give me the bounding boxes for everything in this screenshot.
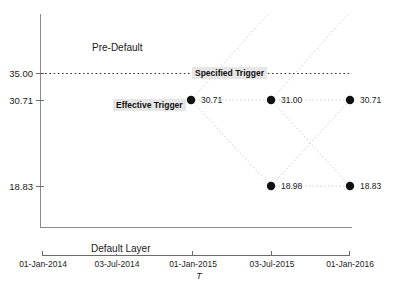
specified-trigger-label: Specified Trigger <box>192 67 267 79</box>
x-tick-label-3: 03-Jul-2015 <box>235 259 309 269</box>
node-n3-value-label: 30.71 <box>360 95 381 105</box>
lattice-nodes <box>187 96 354 190</box>
y-tick-label-35: 35.00 <box>0 68 33 79</box>
edge-n1-up-extension <box>271 14 348 100</box>
y-tick-label-1883: 18.83 <box>0 181 33 192</box>
node-n4-value-label: 18.83 <box>360 181 381 191</box>
y-tick-label-3071: 30.71 <box>0 95 33 106</box>
x-tick-label-2: 01-Jan-2015 <box>156 259 230 269</box>
node-n4-marker <box>346 182 354 190</box>
edge-n0-n2 <box>191 100 271 186</box>
node-n1-marker <box>267 96 275 104</box>
chart-container: 35.00 30.71 18.83 Pre-Default Specified … <box>0 0 398 290</box>
default-layer-label: Default Layer <box>89 243 152 254</box>
edge-n0-up-extension <box>191 14 268 100</box>
region-label-pre-default: Pre-Default <box>92 42 143 53</box>
node-n3-marker <box>346 96 354 104</box>
chart-plot-svg <box>0 0 398 290</box>
node-n2-value-label: 18.98 <box>281 181 302 191</box>
node-n1-value-label: 31.00 <box>281 95 302 105</box>
node-n2-marker <box>267 182 275 190</box>
effective-trigger-label: Effective Trigger <box>113 99 186 111</box>
x-tick-label-4: 01-Jan-2016 <box>313 259 387 269</box>
x-tick-label-1: 03-Jul-2014 <box>80 259 154 269</box>
x-axis-title: T <box>0 271 398 281</box>
node-n0-value-label: 30.71 <box>201 95 222 105</box>
node-n0-marker <box>187 96 195 104</box>
x-tick-label-0: 01-Jan-2014 <box>6 259 80 269</box>
